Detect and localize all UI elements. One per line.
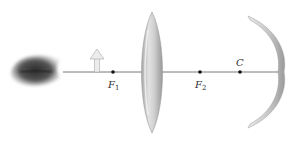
converging-lens — [142, 12, 163, 133]
center-of-curvature-c: C — [236, 57, 244, 74]
svg-text:F1: F1 — [107, 79, 119, 92]
focal-point-f2: F2 — [194, 70, 206, 92]
object-arrow-icon — [90, 49, 104, 72]
svg-text:C: C — [236, 57, 244, 68]
eye-icon — [11, 55, 60, 86]
svg-text:F2: F2 — [194, 79, 206, 92]
focal-point-f1: F1 — [107, 70, 119, 92]
optics-diagram: F1 F2 C — [0, 0, 293, 143]
